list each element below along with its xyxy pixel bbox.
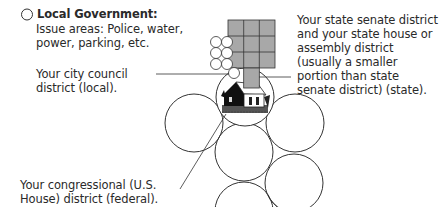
radio-button-icon[interactable] [22, 9, 33, 20]
state-district-label: Your state senate district and your stat… [297, 13, 439, 97]
congressional-district-label: Your congressional (U.S. House) district… [20, 178, 185, 206]
city-council-label: Your city council district (local). [36, 67, 161, 95]
issue-areas-text: Issue areas: Police, water, power, parki… [36, 22, 216, 50]
local-government-heading: Local Government: [37, 7, 158, 21]
